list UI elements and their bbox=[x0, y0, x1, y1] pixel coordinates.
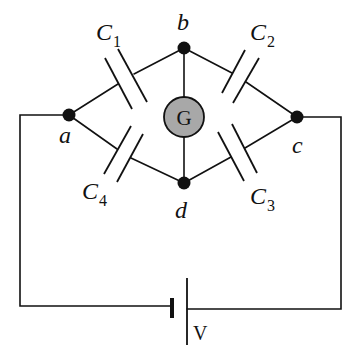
node-c bbox=[291, 111, 304, 124]
node-d bbox=[178, 177, 191, 190]
svg-text:C: C bbox=[250, 183, 267, 209]
svg-text:1: 1 bbox=[113, 33, 121, 50]
svg-text:C: C bbox=[96, 19, 113, 45]
node-a-label: a bbox=[59, 122, 71, 148]
svg-text:4: 4 bbox=[99, 192, 107, 209]
wire-c-to-battery bbox=[187, 117, 341, 309]
capacitor-c4-label: C 4 bbox=[82, 178, 107, 209]
svg-text:3: 3 bbox=[267, 197, 275, 214]
capacitor-c2-label: C 2 bbox=[250, 19, 275, 50]
svg-text:C: C bbox=[250, 19, 267, 45]
node-b-label: b bbox=[177, 9, 189, 35]
wire-a-to-battery bbox=[20, 115, 172, 306]
circuit-diagram: G a b c d C 1 C 2 C 3 C 4 V bbox=[0, 0, 360, 352]
battery-label: V bbox=[193, 322, 208, 344]
galvanometer-label: G bbox=[176, 106, 191, 130]
node-d-label: d bbox=[175, 197, 188, 223]
capacitor-c1 bbox=[69, 48, 184, 115]
svg-text:C: C bbox=[82, 178, 99, 204]
node-a bbox=[63, 109, 76, 122]
battery-icon bbox=[172, 278, 187, 345]
svg-text:2: 2 bbox=[267, 33, 275, 50]
capacitor-c3-label: C 3 bbox=[250, 183, 275, 214]
node-b bbox=[178, 42, 191, 55]
galvanometer-icon: G bbox=[164, 97, 204, 137]
capacitor-c1-label: C 1 bbox=[96, 19, 121, 50]
node-c-label: c bbox=[292, 132, 303, 158]
